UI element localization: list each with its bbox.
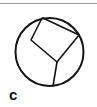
figure-label: c xyxy=(9,87,17,103)
bottom-chord xyxy=(53,62,57,86)
figure-container: c xyxy=(0,0,97,107)
left-chord xyxy=(31,18,57,62)
outer-circle xyxy=(16,18,84,86)
